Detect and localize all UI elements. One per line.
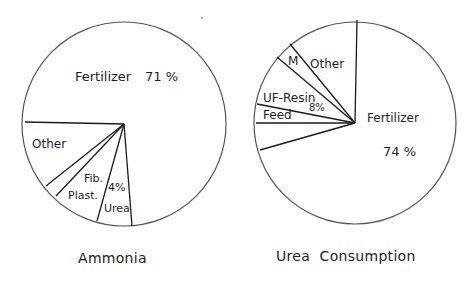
slice-label: Fertilizer bbox=[75, 70, 131, 83]
slice-label: 71 % bbox=[145, 70, 178, 83]
slice-divider bbox=[25, 122, 124, 124]
ammonia-pie bbox=[22, 22, 226, 226]
slice-label: UF-Resin bbox=[263, 92, 315, 104]
stray-dot bbox=[201, 17, 203, 19]
slice-label: Fib. bbox=[84, 173, 103, 184]
slice-label: Feed bbox=[263, 109, 292, 121]
slice-label: Urea bbox=[104, 203, 130, 214]
slice-label: 4% bbox=[108, 182, 125, 193]
ammonia-caption: Ammonia bbox=[78, 250, 147, 266]
urea-consumption-caption: Urea Consumption bbox=[276, 248, 416, 264]
urea-consumption-pie bbox=[254, 20, 456, 224]
slice-label: 8% bbox=[309, 103, 325, 113]
slice-label: Other bbox=[32, 138, 66, 150]
slice-label: Plast. bbox=[68, 190, 98, 201]
slice-divider bbox=[355, 20, 357, 123]
slice-divider bbox=[260, 123, 355, 150]
slice-label: Fertilizer bbox=[367, 112, 419, 124]
slice-label: Other bbox=[310, 58, 344, 70]
slice-label: M bbox=[288, 55, 298, 67]
slice-label: 74 % bbox=[383, 145, 416, 158]
